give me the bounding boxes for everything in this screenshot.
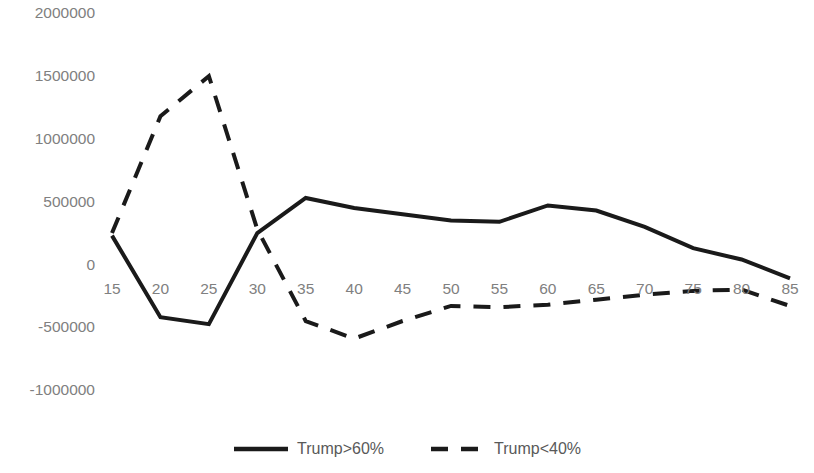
legend-label-trump-gt-60: Trump>60% [297,440,384,458]
y-tick-label: 1000000 [35,131,95,147]
x-tick-label: 85 [770,281,810,297]
series-layer [112,76,790,339]
y-tick-label: -500000 [38,319,95,335]
line-chart: 2000000150000010000005000000-500000-1000… [0,0,814,473]
x-tick-label: 50 [431,281,471,297]
x-tick-label: 25 [189,281,229,297]
legend-label-trump-lt-40: Trump<40% [494,440,581,458]
x-tick-label: 35 [286,281,326,297]
x-tick-label: 60 [528,281,568,297]
legend-item-1: Trump<40% [430,440,581,458]
x-tick-label: 15 [92,281,132,297]
legend-swatch-dashed [430,445,486,453]
y-tick-label: 0 [86,257,95,273]
x-tick-label: 30 [237,281,277,297]
x-tick-label: 40 [334,281,374,297]
y-tick-label: 2000000 [35,5,95,21]
x-tick-label: 80 [722,281,762,297]
series-line-trump-lt-40 [112,76,790,339]
y-tick-label: -1000000 [29,382,95,398]
chart-legend: Trump>60% Trump<40% [0,440,814,458]
x-tick-label: 45 [383,281,423,297]
x-tick-label: 20 [140,281,180,297]
legend-item-0: Trump>60% [233,440,384,458]
x-tick-label: 70 [625,281,665,297]
y-tick-label: 1500000 [35,68,95,84]
legend-swatch-solid [233,445,289,453]
x-tick-label: 75 [673,281,713,297]
plot-area [0,0,814,473]
y-tick-label: 500000 [43,194,95,210]
x-tick-label: 55 [479,281,519,297]
x-tick-label: 65 [576,281,616,297]
